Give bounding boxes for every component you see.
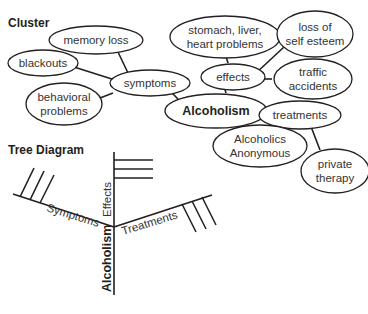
label-therapy: therapy <box>316 172 355 184</box>
label-self-esteem: self esteem <box>286 35 345 47</box>
label-loss-of: loss of <box>298 21 332 33</box>
label-behavioral: behavioral <box>37 91 90 103</box>
node-traffic-accidents <box>274 59 352 99</box>
tree-diagram <box>13 152 216 295</box>
node-alcoholics-anonymous <box>213 125 307 167</box>
label-problems: problems <box>40 105 88 117</box>
label-symptoms: symptoms <box>124 77 177 89</box>
label-accidents: accidents <box>289 80 338 92</box>
label-private: private <box>318 158 353 170</box>
label-alcoholics: Alcoholics <box>234 133 286 145</box>
label-memory-loss: memory loss <box>63 34 128 46</box>
tree-branch-symptoms: Symptoms <box>45 201 101 228</box>
tree-branch-treatments: Treatments <box>120 208 179 236</box>
label-treatments: treatments <box>273 109 328 121</box>
node-private-therapy <box>301 149 368 193</box>
label-traffic: traffic <box>299 66 327 78</box>
label-alcoholism: Alcoholism <box>182 104 249 118</box>
node-stomach <box>170 16 280 58</box>
node-loss-of-self-esteem <box>277 11 353 57</box>
label-stomach: stomach, liver, <box>188 24 262 36</box>
label-effects: effects <box>216 71 250 83</box>
cluster-diagram: memory loss blackouts behavioral problem… <box>0 0 368 314</box>
label-blackouts: blackouts <box>19 57 68 69</box>
label-heart-problems: heart problems <box>187 38 264 50</box>
label-anonymous: Anonymous <box>230 147 291 159</box>
tree-trunk-alcoholism: Alcoholism <box>100 225 114 292</box>
node-behavioral-problems <box>26 83 102 125</box>
tree-branch-effects: Effects <box>101 182 113 217</box>
